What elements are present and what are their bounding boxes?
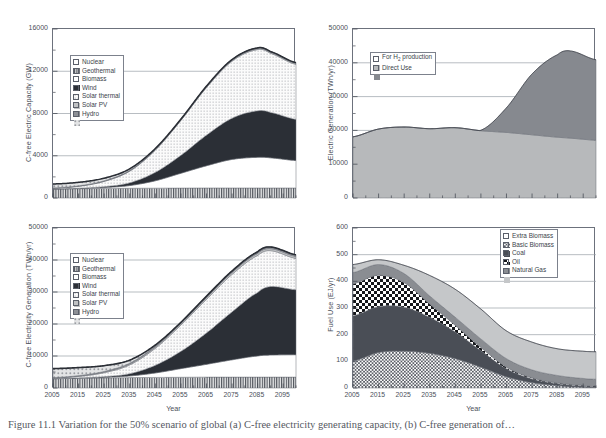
legend-item[interactable]: For H2 production bbox=[373, 55, 432, 64]
x-tick-label: 2075 bbox=[518, 391, 544, 398]
legend-item[interactable]: Nuclear bbox=[73, 58, 120, 67]
legend-label: Wind bbox=[82, 282, 97, 291]
legend-label: Solar thermal bbox=[82, 290, 120, 299]
legend-d: Extra Biomass Basic Biomass bbox=[500, 229, 558, 278]
x-tick-label: 2085 bbox=[244, 391, 270, 398]
y-tick-label: 8000 bbox=[12, 109, 48, 116]
legend-item[interactable]: Biomass bbox=[73, 273, 120, 282]
panel-b-ylabel: C-free Electricity Generation (TWh/yr) bbox=[24, 209, 33, 401]
legend-swatch-icon bbox=[73, 274, 79, 280]
legend-label: Natural Gas bbox=[512, 266, 546, 275]
legend-item[interactable]: Hydro bbox=[73, 110, 120, 119]
legend-item[interactable]: Solar thermal bbox=[73, 92, 120, 101]
legend-item[interactable]: Solar PV bbox=[73, 299, 120, 308]
legend-item[interactable]: Basic Biomass bbox=[503, 241, 554, 250]
y-tick-label: 16000 bbox=[12, 24, 48, 31]
legend-label: Basic Biomass bbox=[512, 241, 554, 250]
legend-label: Solar PV bbox=[82, 101, 107, 110]
x-tick-label: 2065 bbox=[492, 391, 518, 398]
legend-swatch-icon bbox=[73, 309, 79, 315]
legend-swatch-icon bbox=[73, 300, 79, 306]
y-tick-label: 30000 bbox=[12, 287, 48, 294]
y-tick-label: 40000 bbox=[12, 255, 48, 262]
legend-swatch-icon bbox=[73, 292, 79, 298]
legend-label: Coal bbox=[512, 249, 525, 258]
legend-swatch-icon bbox=[503, 242, 509, 248]
legend-swatch-icon bbox=[503, 268, 509, 274]
legend-item[interactable]: Geothermal bbox=[73, 265, 120, 274]
y-tick-label: 20000 bbox=[12, 319, 48, 326]
legend-item[interactable]: Biomass bbox=[73, 75, 120, 84]
x-tick-label: 2035 bbox=[116, 391, 142, 398]
legend-swatch-icon bbox=[73, 283, 79, 289]
legend-item[interactable]: Solar thermal bbox=[73, 290, 120, 299]
legend-label: Biomass bbox=[82, 75, 107, 84]
x-tick-label: 2005 bbox=[339, 391, 365, 398]
x-tick-label: 2035 bbox=[416, 391, 442, 398]
x-tick-label: 2065 bbox=[192, 391, 218, 398]
y-tick-label: 30000 bbox=[312, 92, 348, 99]
legend-label: Geothermal bbox=[82, 265, 115, 274]
y-tick-label: 600 bbox=[312, 223, 348, 230]
legend-item[interactable]: Nuclear bbox=[73, 256, 120, 265]
legend-item[interactable]: Wind bbox=[73, 84, 120, 93]
y-tick-label: 0 bbox=[12, 193, 48, 200]
legend-label: Biomass bbox=[82, 273, 107, 282]
x-tick-label: 2055 bbox=[467, 391, 493, 398]
legend-swatch-icon bbox=[373, 65, 379, 71]
y-tick-label: 50000 bbox=[12, 223, 48, 230]
x-tick-label: 2025 bbox=[90, 391, 116, 398]
y-tick-label: 0 bbox=[12, 383, 48, 390]
legend-swatch-icon bbox=[73, 257, 79, 263]
legend-label: Nuclear bbox=[82, 58, 104, 67]
legend-label: Wind bbox=[82, 84, 97, 93]
legend-item[interactable]: Oil bbox=[503, 258, 554, 267]
legend-item[interactable]: Natural Gas bbox=[503, 266, 554, 275]
legend-swatch-icon bbox=[73, 266, 79, 272]
x-tick-label: 2045 bbox=[441, 391, 467, 398]
x-tick-label: 2095 bbox=[569, 391, 595, 398]
y-tick-label: 4000 bbox=[12, 151, 48, 158]
y-tick-label: 0 bbox=[312, 193, 348, 200]
legend-swatch-icon bbox=[373, 56, 379, 62]
y-tick-label: 40000 bbox=[312, 58, 348, 65]
panel-d-plot-area bbox=[352, 227, 595, 387]
y-tick-label: 200 bbox=[312, 330, 348, 337]
legend-swatch-icon bbox=[503, 250, 509, 256]
y-tick-label: 100 bbox=[312, 356, 348, 363]
legend-label: Solar thermal bbox=[82, 92, 120, 101]
legend-item[interactable]: Extra Biomass bbox=[503, 232, 554, 241]
legend-item[interactable]: Wind bbox=[73, 282, 120, 291]
legend-label: Solar PV bbox=[82, 299, 107, 308]
legend-swatch-icon bbox=[503, 259, 509, 265]
panel-b-xlabel: Year bbox=[52, 404, 295, 413]
legend-item[interactable]: Hydro bbox=[73, 308, 120, 317]
legend-swatch-icon bbox=[73, 85, 79, 91]
y-tick-label: 0 bbox=[312, 383, 348, 390]
x-tick-label: 2085 bbox=[544, 391, 570, 398]
x-tick-label: 2025 bbox=[390, 391, 416, 398]
legend-label: Oil bbox=[512, 258, 520, 267]
legend-swatch-icon bbox=[73, 76, 79, 82]
y-tick-label: 20000 bbox=[312, 125, 348, 132]
y-tick-label: 50000 bbox=[312, 24, 348, 31]
x-tick-label: 2015 bbox=[365, 391, 391, 398]
legend-label: Direct Use bbox=[382, 64, 412, 73]
legend-item[interactable]: Geothermal bbox=[73, 67, 120, 76]
legend-item[interactable]: Coal bbox=[503, 249, 554, 258]
legend-label: Nuclear bbox=[82, 256, 104, 265]
legend-label: Hydro bbox=[82, 110, 99, 119]
legend-swatch-icon bbox=[73, 68, 79, 74]
panel-d-xlabel: Year bbox=[352, 404, 595, 413]
x-tick-label: 2075 bbox=[218, 391, 244, 398]
legend-swatch-icon bbox=[73, 102, 79, 108]
legend-b: Nuclear Geothermal bbox=[70, 253, 124, 319]
panel-c-ylabel: Electric Generation (TWh/yr) bbox=[326, 31, 335, 195]
legend-label: Extra Biomass bbox=[512, 232, 553, 241]
y-tick-label: 400 bbox=[312, 276, 348, 283]
legend-label: Geothermal bbox=[82, 67, 115, 76]
legend-a: Nuclear Geothermal bbox=[70, 55, 124, 121]
y-tick-label: 300 bbox=[312, 303, 348, 310]
y-tick-label: 10000 bbox=[12, 351, 48, 358]
legend-item[interactable]: Solar PV bbox=[73, 101, 120, 110]
